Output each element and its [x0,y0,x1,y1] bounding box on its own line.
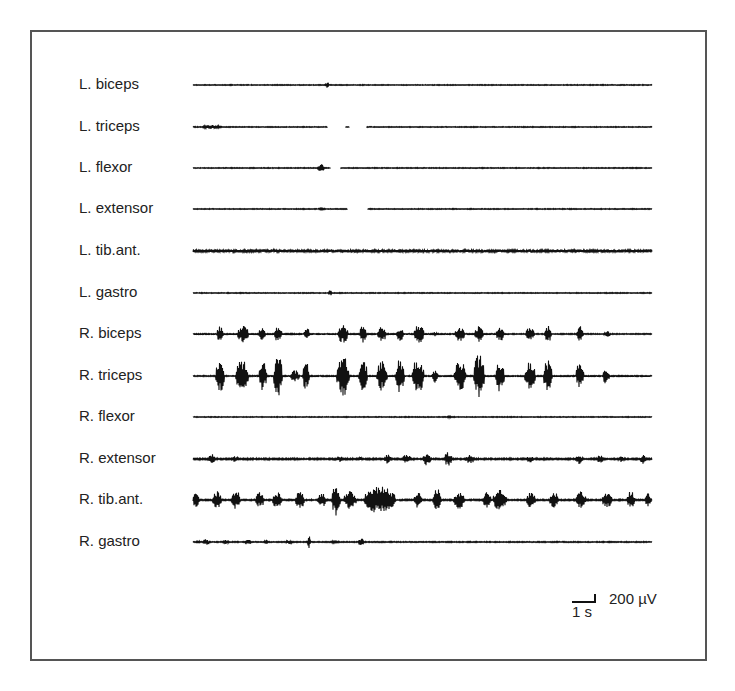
channel-label: L. triceps [79,117,140,135]
channel-label: R. tib.ant. [79,490,143,508]
channel-label: R. gastro [79,532,140,550]
emg-trace [193,416,652,418]
channel-label: L. tib.ant. [79,241,141,259]
emg-trace [193,83,652,88]
scale-bar [572,594,595,602]
emg-trace [193,325,652,342]
channel-label: R. flexor [79,407,135,425]
channel-label: R. biceps [79,324,142,342]
emg-trace [193,356,652,397]
scale-bar-time-label: 1 s [572,603,592,620]
emg-trace [193,249,652,252]
emg-trace [193,487,652,516]
channel-label: L. extensor [79,199,153,217]
emg-traces-plot [0,0,735,691]
channel-label: R. triceps [79,366,142,384]
scale-bar-voltage-label: 200 µV [609,590,657,607]
channel-label: R. extensor [79,449,156,467]
channel-label: L. flexor [79,158,132,176]
emg-trace [193,452,652,465]
emg-trace [193,208,652,210]
channel-label: L. gastro [79,283,137,301]
emg-trace [193,537,652,548]
emg-trace [193,291,652,296]
channel-label: L. biceps [79,75,139,93]
emg-trace [193,125,652,129]
emg-trace [193,164,652,171]
